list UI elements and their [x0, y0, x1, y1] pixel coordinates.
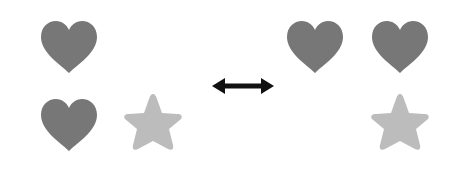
heart-icon: [370, 19, 430, 75]
right-shape-group: right set: [0, 0, 460, 172]
star-icon: [369, 92, 431, 152]
heart-icon: [285, 19, 345, 75]
right-group-label: right set: [0, 0, 1, 1]
